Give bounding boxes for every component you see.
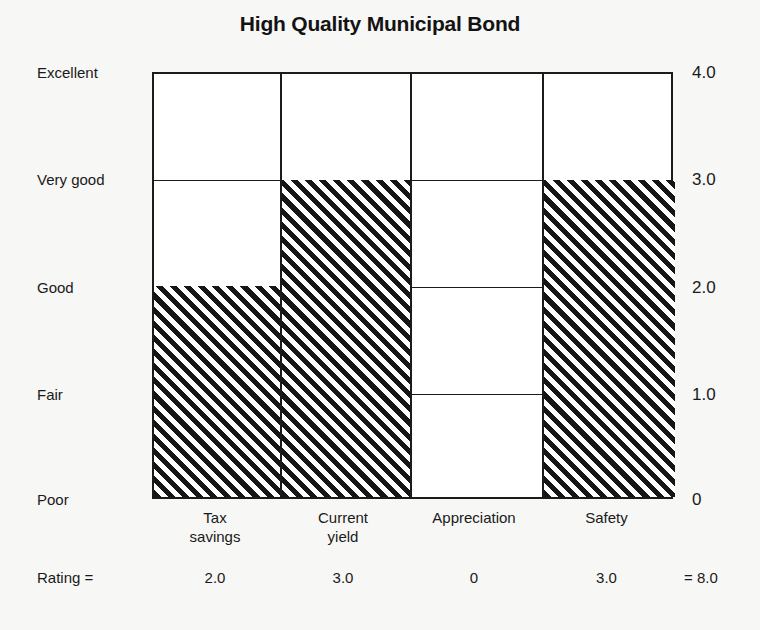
rating-value-safety: 3.0 <box>540 569 673 586</box>
plot-area <box>152 72 673 499</box>
category-label-line1: Appreciation <box>408 508 540 527</box>
chart-root: High Quality Municipal Bond Excellent Ve… <box>0 0 760 630</box>
rating-value-current-yield: 3.0 <box>278 569 408 586</box>
y-axis-label-poor: Poor <box>37 492 69 507</box>
y-axis-label-fair: Fair <box>37 387 63 402</box>
category-label-line1: Current <box>278 508 408 527</box>
y-axis-label-good: Good <box>37 280 74 295</box>
bar-current-yield <box>282 180 410 497</box>
bar-safety <box>544 180 675 497</box>
rating-value-tax-savings: 2.0 <box>152 569 278 586</box>
bar-column-safety <box>542 74 675 497</box>
category-label-tax-savings: Tax savings <box>152 508 278 546</box>
rating-row-label: Rating = <box>37 569 93 586</box>
y-axis-value-0: 0 <box>692 491 701 508</box>
category-label-line2: yield <box>278 527 408 546</box>
y-axis-value-3: 3.0 <box>692 171 716 188</box>
y-axis-value-2: 2.0 <box>692 279 716 296</box>
bar-column-current-yield <box>280 74 410 497</box>
chart-title: High Quality Municipal Bond <box>0 12 760 36</box>
y-axis-value-4: 4.0 <box>692 64 716 81</box>
category-label-current-yield: Current yield <box>278 508 408 546</box>
category-label-line1: Tax <box>152 508 278 527</box>
bar-tax-savings <box>154 286 280 498</box>
bar-column-tax-savings <box>154 74 280 497</box>
bar-column-appreciation <box>410 74 542 497</box>
y-axis-value-1: 1.0 <box>692 386 716 403</box>
y-axis-label-very-good: Very good <box>37 172 105 187</box>
category-label-appreciation: Appreciation <box>408 508 540 527</box>
category-label-line1: Safety <box>540 508 673 527</box>
y-axis-label-excellent: Excellent <box>37 65 98 80</box>
category-label-line2: savings <box>152 527 278 546</box>
rating-total: = 8.0 <box>684 569 718 586</box>
rating-value-appreciation: 0 <box>408 569 540 586</box>
category-label-safety: Safety <box>540 508 673 527</box>
